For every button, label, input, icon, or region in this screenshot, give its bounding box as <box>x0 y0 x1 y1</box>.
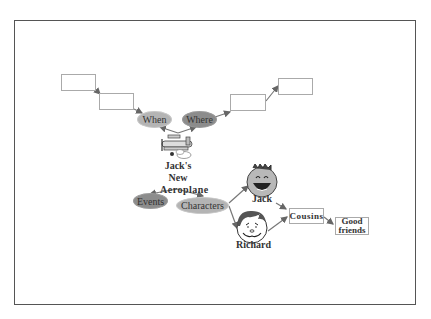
characters-node[interactable]: Characters <box>176 197 229 214</box>
connector-lines <box>0 0 431 319</box>
where-node[interactable]: Where <box>182 111 217 128</box>
good-friends-box[interactable]: Good friends <box>335 217 369 235</box>
aeroplane-icon <box>162 135 192 159</box>
center-title: Jack's New Aeroplane <box>160 160 196 196</box>
where-box-1[interactable] <box>230 94 266 111</box>
richard-label: Richard <box>236 239 268 251</box>
when-node[interactable]: When <box>137 111 172 128</box>
jack-label: Jack <box>250 193 274 205</box>
when-box-1[interactable] <box>61 74 96 91</box>
cousins-box[interactable]: Cousins <box>289 208 324 224</box>
when-box-2[interactable] <box>99 93 134 110</box>
where-box-2[interactable] <box>278 78 313 95</box>
